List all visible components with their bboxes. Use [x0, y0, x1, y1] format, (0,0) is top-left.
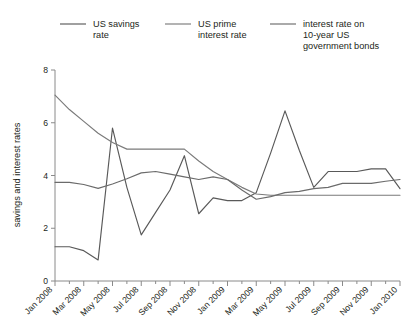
x-tick-label: Jan 2008	[22, 284, 54, 316]
legend-label-2: government bonds	[303, 41, 380, 51]
y-tick-label: 6	[43, 118, 48, 128]
chart-container: US savingsrateUS primeinterest rateinter…	[0, 0, 417, 330]
legend-label-1: interest rate	[198, 30, 247, 40]
legend-label-0: rate	[93, 30, 109, 40]
x-tick-label: Sep 2008	[136, 284, 169, 317]
x-tick-label: Jan 2010	[367, 284, 399, 316]
legend-label-2: interest rate on	[303, 19, 364, 29]
x-tick-label: Nov 2008	[165, 284, 198, 317]
legend-label-1: US prime	[198, 19, 236, 29]
legend-label-0: US savings	[93, 19, 140, 29]
y-tick-label: 8	[43, 65, 48, 75]
x-tick-label: May 2009	[251, 284, 285, 318]
line-chart: US savingsrateUS primeinterest rateinter…	[0, 0, 417, 330]
legend-label-2: 10-year US	[303, 30, 349, 40]
x-tick-label: May 2008	[78, 284, 112, 318]
y-tick-label: 2	[43, 223, 48, 233]
x-tick-label: Sep 2009	[309, 284, 342, 317]
y-axis-title: savings and interest rates	[12, 122, 22, 227]
y-tick-label: 4	[43, 171, 48, 181]
x-tick-label: Nov 2009	[338, 284, 371, 317]
x-tick-label: Jan 2009	[195, 284, 227, 316]
